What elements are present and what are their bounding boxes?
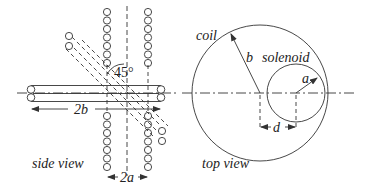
coil-radius-label: b (246, 50, 253, 65)
coil-label: coil (196, 28, 217, 43)
angle-label: 45° (114, 65, 134, 80)
solenoid-label: solenoid (262, 50, 310, 65)
coil-width-label: 2b (74, 102, 88, 117)
top-view-caption: top view (202, 156, 250, 171)
coil-solenoid-diagram: 45° 2b 2a side view coil b solenoid a d … (0, 0, 368, 188)
solenoid-width-label: 2a (120, 170, 134, 185)
side-view (17, 6, 178, 177)
solenoid-right-top-turns (144, 8, 151, 66)
coil-horizontal (27, 86, 165, 102)
offset-label: d (273, 120, 281, 135)
solenoid-radius-label: a (302, 71, 309, 86)
coil-tilted-45 (65, 32, 168, 144)
solenoid-right-bottom-turns (144, 112, 151, 170)
top-view (182, 25, 356, 161)
solenoid-left-bottom-turns (103, 112, 110, 170)
solenoid-left-top-turns (103, 8, 110, 66)
side-view-caption: side view (32, 156, 84, 171)
